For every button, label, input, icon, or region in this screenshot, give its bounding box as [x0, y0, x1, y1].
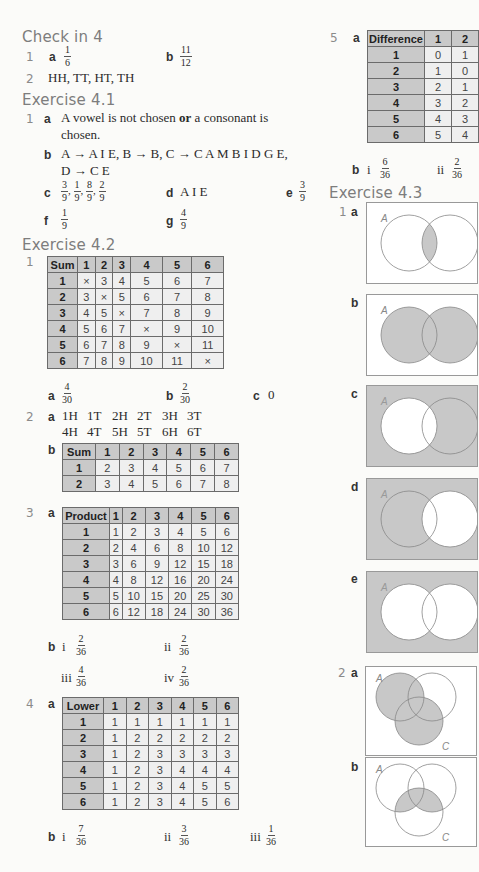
subpart-label: i	[62, 639, 66, 655]
answer-fraction: 16	[64, 45, 71, 68]
answer-fraction: 736	[76, 824, 86, 847]
venn-diagram-2a: A C	[365, 666, 477, 756]
part-label: b	[351, 296, 358, 310]
question-number: 2	[338, 666, 346, 680]
answer-text: D → C E	[61, 162, 110, 179]
question-number: 1	[26, 50, 34, 64]
answer-fraction: 436	[76, 665, 86, 688]
sum-table-coin: Sum123456 1234567 2345678	[62, 443, 239, 492]
venn-diagram-2b: A C	[365, 757, 477, 847]
venn-diagram-1e: A	[366, 571, 478, 653]
answer-text: A I E	[180, 183, 207, 200]
question-number: 2	[26, 410, 34, 424]
question-number: 2	[26, 72, 34, 86]
answer-fraction: 19	[61, 208, 68, 231]
set-label-c: C	[442, 832, 449, 843]
part-label: b	[48, 640, 55, 654]
subpart-label: ii	[437, 162, 444, 178]
part-label: a	[49, 50, 56, 64]
question-number: 1	[26, 255, 34, 269]
part-label: c	[253, 389, 260, 403]
set-label: A	[381, 213, 388, 224]
venn-diagram-1a: A	[366, 202, 478, 284]
part-label: c	[351, 387, 358, 401]
set-label: A	[381, 305, 388, 316]
part-label: a	[48, 506, 55, 520]
answer-text: chosen.	[61, 126, 100, 143]
set-label: A	[381, 396, 388, 407]
answer-text: HH, TT, HT, TH	[48, 69, 134, 86]
answer-fraction: 430	[62, 382, 72, 405]
answer-fraction: 49	[180, 208, 187, 231]
question-number: 3	[26, 506, 34, 520]
subpart-label: i	[62, 829, 66, 845]
set-label-a: A	[376, 673, 383, 684]
part-label: a	[44, 112, 51, 126]
answer-fraction: 1112	[180, 45, 192, 68]
answer-fraction: 136	[266, 824, 276, 847]
difference-table: Difference12 101 210 321 432 543 654	[367, 30, 479, 143]
part-label: d	[166, 186, 173, 200]
part-label: e	[351, 572, 358, 586]
part-label: c	[44, 186, 51, 200]
answer-text: A vowel is not chosen or a consonant is	[61, 109, 301, 126]
subpart-label: iii	[250, 829, 261, 845]
part-label: b	[352, 163, 359, 177]
venn-diagram-1b: A	[366, 294, 478, 376]
subpart-label: ii	[164, 829, 171, 845]
subpart-label: iii	[61, 670, 72, 686]
subpart-label: iv	[164, 670, 174, 686]
set-label-c: C	[442, 741, 449, 752]
exercise-4-2-heading: Exercise 4.2	[22, 236, 115, 254]
set-label: A	[381, 489, 388, 500]
answer-fraction: 236	[452, 157, 462, 180]
outcome-row: 4H4T5H5T6H6T	[62, 423, 212, 440]
part-label: b	[48, 443, 55, 457]
part-label: a	[48, 389, 55, 403]
part-label: d	[351, 480, 358, 494]
part-label: b	[44, 148, 51, 162]
part-label: a	[48, 697, 55, 711]
part-label: a	[351, 205, 358, 219]
part-label: g	[166, 214, 173, 228]
part-label: b	[166, 389, 173, 403]
answer-text: A → A I E, B → B, C → C A M B I D G E,	[61, 145, 288, 162]
venn-diagram-1c: A	[366, 385, 478, 467]
outcome-row: 1H1T2H2T3H3T	[62, 407, 212, 424]
answer-fraction: 636	[380, 157, 390, 180]
answer-fraction: 236	[76, 634, 86, 657]
venn-diagram-1d: A	[366, 478, 478, 560]
answer-fraction: 236	[179, 665, 189, 688]
part-label: a	[48, 410, 55, 424]
question-number: 5	[330, 31, 338, 45]
set-label-a: A	[376, 764, 383, 775]
part-label: b	[48, 830, 55, 844]
part-label: b	[351, 760, 358, 774]
check-in-heading: Check in 4	[22, 28, 103, 46]
answer-text: 0	[268, 386, 275, 403]
exercise-4-3-heading: Exercise 4.3	[329, 184, 422, 202]
answer-fraction: 236	[179, 634, 189, 657]
question-number: 1	[26, 112, 34, 126]
answer-fraction: 230	[180, 382, 190, 405]
sum-table: Sum123456 1×34567 23×5678 345×789 4567×9…	[47, 256, 224, 369]
set-label: A	[381, 582, 388, 593]
question-number: 1	[339, 205, 347, 219]
lower-table: Lower123456 1111111 2122222 3123333 4123…	[62, 697, 239, 810]
part-label: a	[353, 31, 360, 45]
part-label: f	[44, 214, 48, 228]
subpart-label: ii	[164, 639, 171, 655]
answer-fraction: 336	[179, 824, 189, 847]
part-label: b	[166, 50, 173, 64]
answer-fraction-list: 39, 19, 89, 29	[61, 180, 106, 203]
product-table: Product123456 1123456 224681012 33691215…	[62, 507, 239, 620]
part-label: a	[351, 666, 358, 680]
answer-fraction: 39	[299, 180, 306, 203]
exercise-4-1-heading: Exercise 4.1	[22, 91, 115, 109]
subpart-label: i	[367, 162, 371, 178]
part-label: e	[286, 186, 293, 200]
question-number: 4	[26, 697, 34, 711]
